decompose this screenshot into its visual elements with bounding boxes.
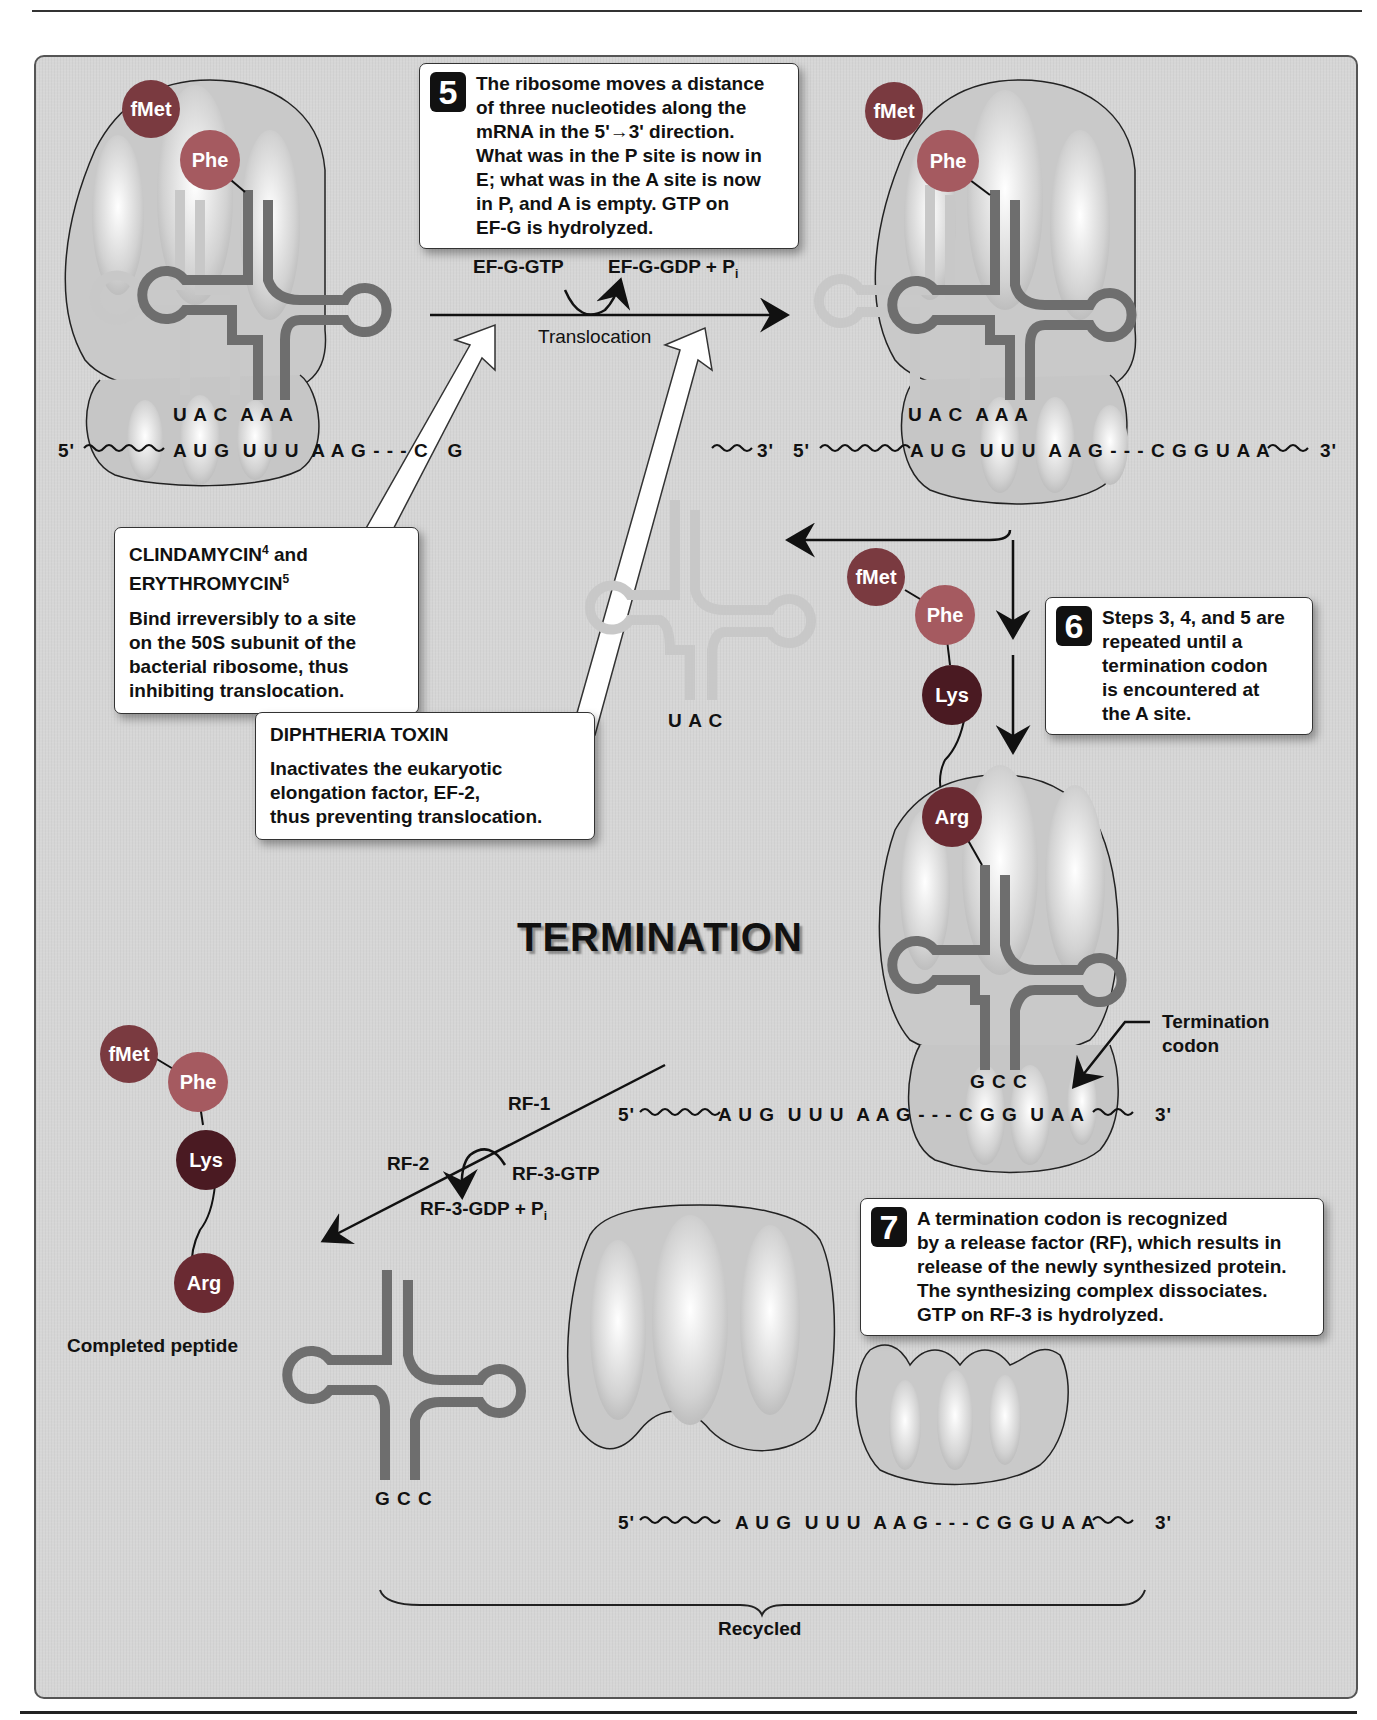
clindamycin-erythromycin-box: CLINDAMYCIN4 andERYTHROMYCIN5 Bind irrev… — [114, 527, 419, 714]
step-7-badge: 7 — [871, 1207, 907, 1247]
step-7-text: A termination codon is recognized by a r… — [917, 1207, 1287, 1327]
amino-acid-lys-peptide: Lys — [176, 1130, 236, 1190]
recycled-large-subunit — [568, 1205, 835, 1451]
released-trna-gcc — [287, 1270, 521, 1480]
rf-3-gdp-label: RF-3-GDP + Pi — [420, 1198, 547, 1223]
clindamycin-title: CLINDAMYCIN4 andERYTHROMYCIN5 — [129, 538, 404, 597]
gtp-hydrolysis-curve — [565, 282, 620, 315]
amino-acid-phe-top-left: Phe — [180, 130, 240, 190]
released-trna-anticodon: G C C — [375, 1488, 433, 1510]
mrna-3prime-termination: 3' — [1155, 1104, 1172, 1126]
amino-acid-fmet-peptide: fMet — [100, 1025, 158, 1083]
mrna-5prime-recycled: 5' — [618, 1512, 635, 1534]
step-7-box: 7 A termination codon is recognized by a… — [860, 1198, 1324, 1336]
mrna-3prime-recycled: 3' — [1155, 1512, 1172, 1534]
amino-acid-phe-middle: Phe — [915, 585, 975, 645]
rf-1-label: RF-1 — [508, 1093, 550, 1115]
mrna-sequence-top-right: A U G U U U A A G - - - C G G U A A — [910, 440, 1271, 462]
step-6-badge: 6 — [1056, 606, 1092, 646]
step-5-text: The ribosome moves a distance of three n… — [476, 72, 764, 240]
mrna-sequence-termination: A U G U U U A A G - - - C G G U A A — [718, 1104, 1085, 1126]
termination-codon-label: Termination codon — [1162, 1010, 1269, 1058]
mrna-5prime-termination: 5' — [618, 1104, 635, 1126]
mrna-sequence-recycled: A U G U U U A A G - - - C G G U A A — [735, 1512, 1096, 1534]
recycled-label: Recycled — [718, 1618, 801, 1640]
bottom-rule — [20, 1711, 1357, 1714]
recycled-brace — [380, 1590, 1145, 1615]
mrna-3prime-top-right-prev: 3' — [757, 440, 774, 462]
mrna-5prime-top-right: 5' — [793, 440, 810, 462]
diphtheria-toxin-box: DIPHTHERIA TOXIN Inactivates the eukaryo… — [255, 712, 595, 840]
diphtheria-title: DIPHTHERIA TOXIN — [270, 723, 580, 747]
anticodon-termination: G C C — [970, 1071, 1028, 1093]
free-trna-anticodon: U A C — [668, 710, 723, 732]
rf-2-label: RF-2 — [387, 1153, 429, 1175]
step-5-badge: 5 — [430, 72, 466, 112]
amino-acid-arg-peptide: Arg — [174, 1253, 234, 1313]
anticodons-top-left: U A C A A A — [173, 404, 294, 426]
amino-acid-lys-middle: Lys — [922, 665, 982, 725]
amino-acid-fmet-top-left: fMet — [122, 80, 180, 138]
amino-acid-phe-peptide: Phe — [168, 1052, 228, 1112]
rf-3-gtp-label: RF-3-GTP — [512, 1163, 600, 1185]
translocation-label: Translocation — [538, 326, 651, 348]
mrna-5prime-top-left: 5' — [58, 440, 75, 462]
amino-acid-arg-middle: Arg — [922, 787, 982, 847]
clindamycin-description: Bind irreversibly to a site on the 50S s… — [129, 607, 404, 703]
step-6-text: Steps 3, 4, and 5 are repeated until a t… — [1102, 606, 1285, 726]
step-5-box: 5 The ribosome moves a distance of three… — [419, 63, 799, 249]
ef-g-gdp-label: EF-G-GDP + Pi — [608, 256, 738, 281]
ef-g-gtp-label: EF-G-GTP — [473, 256, 564, 278]
mrna-3prime-top-right: 3' — [1320, 440, 1337, 462]
step-6-box: 6 Steps 3, 4, and 5 are repeated until a… — [1045, 597, 1313, 735]
diphtheria-description: Inactivates the eukaryotic elongation fa… — [270, 757, 580, 829]
mrna-sequence-top-left: A U G U U U A A G - - - C G — [173, 440, 463, 462]
recycled-small-subunit — [856, 1345, 1068, 1484]
diphtheria-arrow — [510, 328, 712, 740]
amino-acid-phe-top-right: Phe — [917, 130, 979, 192]
anticodons-top-right: U A C A A A — [908, 404, 1029, 426]
rf3-hydrolysis-curve — [462, 1149, 505, 1195]
amino-acid-fmet-top-right: fMet — [865, 82, 923, 140]
section-title-termination: TERMINATION — [517, 915, 803, 960]
completed-peptide-label: Completed peptide — [67, 1335, 238, 1357]
release-arrow-left — [790, 530, 1010, 540]
amino-acid-fmet-middle: fMet — [847, 548, 905, 606]
